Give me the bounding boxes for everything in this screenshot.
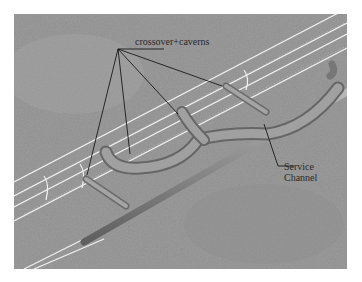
diagram-canvas (14, 14, 347, 269)
service-channel-label-line1: Service (284, 161, 317, 172)
service-channel-label: Service Channel (284, 161, 317, 183)
service-channel-label-line2: Channel (284, 172, 317, 183)
tunnel-diagram (14, 14, 347, 269)
crossover-caverns-label: crossover+caverns (135, 36, 210, 47)
